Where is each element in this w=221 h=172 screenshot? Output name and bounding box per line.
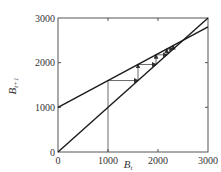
y-tick-label: 2000: [35, 57, 55, 68]
y-tick-label: 3000: [35, 13, 55, 24]
cobweb-chart: 01000200030000100020003000 Bt Bt+1: [0, 0, 221, 172]
chart-svg: 01000200030000100020003000 Bt Bt+1: [0, 0, 221, 172]
x-tick-label: 1000: [98, 155, 118, 166]
x-tick-label: 0: [56, 155, 61, 166]
x-tick-label: 3000: [198, 155, 218, 166]
x-axis-label: Bt: [124, 158, 134, 172]
x-tick-label: 2000: [148, 155, 168, 166]
y-tick-label: 0: [50, 147, 55, 158]
y-tick-label: 1000: [35, 102, 55, 113]
y-axis-label: Bt+1: [6, 78, 20, 95]
replacement-line: [58, 18, 208, 152]
data-lines: [58, 18, 208, 152]
